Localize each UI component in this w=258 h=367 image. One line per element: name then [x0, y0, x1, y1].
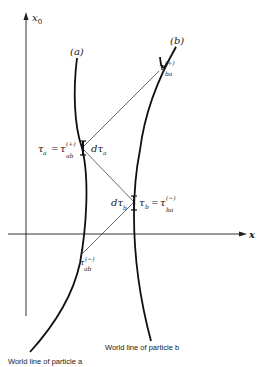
- svg-text:=: =: [51, 144, 59, 154]
- x0-axis-label: x0: [32, 12, 42, 26]
- svg-text:(+): (+): [165, 59, 175, 66]
- svg-text:b: b: [145, 203, 149, 210]
- svg-text:a: a: [103, 149, 107, 156]
- tau-ab-minus-label: τ (−) ab: [80, 255, 95, 272]
- svg-text:(−): (−): [166, 194, 176, 201]
- curve-b-label: (b): [170, 35, 184, 46]
- svg-text:(−): (−): [85, 255, 95, 262]
- dtau-b-interval: [131, 196, 137, 210]
- dtau-a-label: dτ a: [91, 143, 107, 156]
- svg-text:a: a: [43, 149, 47, 156]
- svg-text:ab: ab: [84, 265, 92, 272]
- x0-axis-arrow-icon: [24, 12, 29, 20]
- svg-text:ba: ba: [166, 206, 174, 213]
- world-line-a: [30, 58, 86, 352]
- tau-a-label: τ a = τ (+) ab: [38, 140, 76, 159]
- svg-text:b: b: [123, 204, 127, 211]
- caption-particle-b: World line of particle b: [105, 343, 179, 352]
- curve-a-label: (a): [70, 46, 84, 57]
- signal-a-to-b: [82, 148, 134, 202]
- svg-text:ab: ab: [66, 152, 74, 159]
- caption-particle-a: World line of particle a: [8, 357, 83, 366]
- dtau-b-label: dτ b: [111, 197, 127, 211]
- signal-a-to-b-future: [82, 71, 159, 148]
- svg-text:dτ: dτ: [91, 143, 103, 154]
- x-axis-arrow-icon: [239, 232, 247, 237]
- spacetime-diagram: x0 x (a) (b) τ (+) ba τ a = τ (+) ab dτ: [0, 0, 258, 367]
- svg-text:=: =: [151, 198, 159, 208]
- svg-text:dτ: dτ: [111, 197, 123, 208]
- x-axis-label: x: [248, 229, 256, 240]
- svg-text:ba: ba: [165, 70, 173, 77]
- tau-b-label: τ b = τ (−) ba: [139, 194, 176, 213]
- svg-text:(+): (+): [66, 140, 76, 147]
